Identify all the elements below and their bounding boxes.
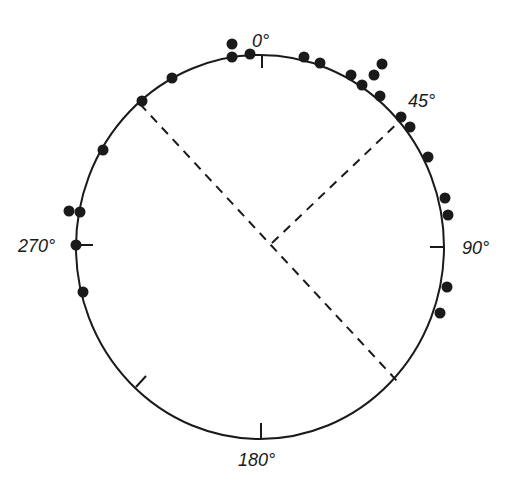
data-point xyxy=(442,282,453,293)
data-points xyxy=(64,39,454,319)
data-point xyxy=(75,207,86,218)
data-point xyxy=(137,96,148,107)
data-point xyxy=(299,52,310,63)
axis-dashed-line xyxy=(140,104,398,382)
data-point xyxy=(227,52,238,63)
mean-direction-dashed-line xyxy=(272,118,403,243)
data-point xyxy=(423,152,434,163)
data-point xyxy=(315,58,326,69)
tick-225 xyxy=(136,376,146,387)
label-270: 270° xyxy=(17,236,55,256)
data-point xyxy=(245,49,256,60)
data-point xyxy=(227,39,238,50)
data-point xyxy=(377,59,388,70)
data-point xyxy=(396,112,407,123)
data-point xyxy=(78,287,89,298)
data-point xyxy=(443,210,454,221)
data-point xyxy=(369,70,380,81)
data-point xyxy=(346,70,357,81)
data-point xyxy=(405,122,416,133)
data-point xyxy=(64,206,75,217)
label-0: 0° xyxy=(252,31,269,51)
label-45: 45° xyxy=(408,91,435,111)
circular-plot: 0° 45° 90° 180° 270° xyxy=(0,0,517,494)
plot-circle xyxy=(76,55,444,439)
data-point xyxy=(375,91,386,102)
data-point xyxy=(357,80,368,91)
label-90: 90° xyxy=(462,238,489,258)
label-180: 180° xyxy=(238,450,275,470)
data-point xyxy=(435,308,446,319)
data-point xyxy=(71,240,82,251)
data-point xyxy=(167,73,178,84)
data-point xyxy=(98,145,109,156)
data-point xyxy=(440,193,451,204)
